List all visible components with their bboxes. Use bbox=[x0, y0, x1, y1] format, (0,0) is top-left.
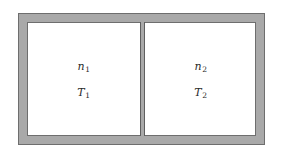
figure-canvas: n1 T1 n2 T2 bbox=[0, 0, 281, 156]
symbol-t-right: T bbox=[194, 86, 202, 99]
subscript-t-left: 1 bbox=[85, 91, 90, 100]
subscript-t-right: 2 bbox=[202, 91, 207, 100]
chamber-left: n1 T1 bbox=[27, 22, 140, 136]
label-temperature-right: T2 bbox=[194, 87, 206, 98]
subscript-n-left: 1 bbox=[85, 65, 90, 74]
symbol-n-right: n bbox=[194, 60, 201, 73]
symbol-t-left: T bbox=[77, 86, 85, 99]
subscript-n-right: 2 bbox=[202, 65, 207, 74]
label-moles-left: n1 bbox=[77, 61, 89, 72]
label-temperature-left: T1 bbox=[77, 87, 89, 98]
symbol-n-left: n bbox=[77, 60, 84, 73]
label-moles-right: n2 bbox=[194, 61, 206, 72]
chamber-right: n2 T2 bbox=[145, 22, 256, 136]
